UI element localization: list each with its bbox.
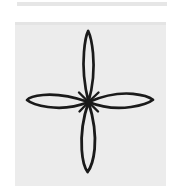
- scanned-page: [0, 0, 181, 186]
- left-petal-path: [27, 95, 89, 108]
- scanner-streak-artifact: [17, 2, 167, 6]
- right-petal-path: [89, 94, 154, 108]
- four-petal-flower-drawing: [15, 22, 166, 186]
- top-petal-path: [83, 31, 93, 102]
- bottom-petal-path: [82, 102, 95, 172]
- paper-panel: [15, 22, 166, 186]
- center-ink-blot: [86, 99, 91, 104]
